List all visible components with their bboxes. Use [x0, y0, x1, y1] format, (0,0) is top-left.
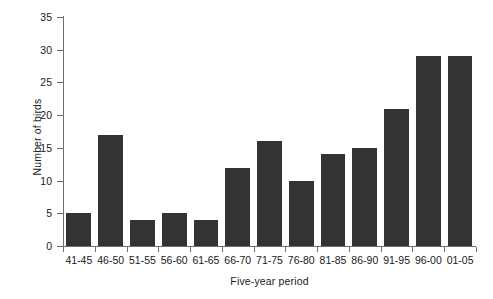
y-axis-tick-label: 30: [26, 44, 52, 55]
x-axis-tick: [254, 247, 255, 252]
x-axis-tick-label: 71-75: [256, 255, 283, 266]
x-axis-tick: [412, 247, 413, 252]
x-axis-tick: [381, 247, 382, 252]
x-axis-tick: [63, 247, 64, 252]
x-axis-title: Five-year period: [63, 275, 476, 287]
bar: [225, 168, 250, 247]
bar-chart: Number of birds 05101520253035 41-4546-5…: [0, 0, 493, 299]
y-axis-title: Number of birds: [31, 37, 43, 237]
bar-slot: [63, 17, 95, 246]
bar: [66, 213, 91, 246]
bar: [194, 220, 219, 246]
bar: [384, 109, 409, 246]
x-axis-tick: [95, 247, 96, 252]
x-axis-tick-label: 76-80: [288, 255, 315, 266]
bar-series: [63, 17, 476, 246]
bar: [162, 213, 187, 246]
bar-slot: [222, 17, 254, 246]
bar-slot: [285, 17, 317, 246]
bar-slot: [190, 17, 222, 246]
x-axis-tick-label: 46-50: [97, 255, 124, 266]
y-axis-tick-label: 20: [26, 110, 52, 121]
y-axis-tick-label: 25: [26, 77, 52, 88]
x-axis-tick: [190, 247, 191, 252]
x-axis-tick-label: 86-90: [351, 255, 378, 266]
x-axis-tick-label: 01-05: [447, 255, 474, 266]
x-axis-tick: [285, 247, 286, 252]
bar-slot: [412, 17, 444, 246]
x-axis-tick-label: 51-55: [129, 255, 156, 266]
x-axis-tick-label: 91-95: [383, 255, 410, 266]
bar: [130, 220, 155, 246]
y-axis-tick-label: 10: [26, 175, 52, 186]
bar-slot: [349, 17, 381, 246]
x-axis-tick-label: 81-85: [320, 255, 347, 266]
x-axis-tick-label: 96-00: [415, 255, 442, 266]
x-axis-tick-label: 61-65: [193, 255, 220, 266]
bar-slot: [444, 17, 476, 246]
x-axis-tick: [476, 247, 477, 252]
bar: [98, 135, 123, 246]
bar-slot: [127, 17, 159, 246]
y-axis-tick-label: 35: [26, 12, 52, 23]
bar: [352, 148, 377, 246]
x-axis-tick: [317, 247, 318, 252]
x-axis-tick: [127, 247, 128, 252]
y-axis-tick-label: 15: [26, 143, 52, 154]
bar: [448, 56, 473, 246]
bar-slot: [95, 17, 127, 246]
y-axis-tick-label: 0: [26, 241, 52, 252]
x-axis-tick-label: 41-45: [65, 255, 92, 266]
bar: [257, 141, 282, 246]
bar-slot: [254, 17, 286, 246]
bar-slot: [381, 17, 413, 246]
x-axis-tick: [349, 247, 350, 252]
x-axis-tick: [222, 247, 223, 252]
y-axis-tick-label: 5: [26, 208, 52, 219]
x-axis-tick: [158, 247, 159, 252]
bar: [289, 181, 314, 246]
x-axis-tick-label: 56-60: [161, 255, 188, 266]
x-axis-tick: [444, 247, 445, 252]
x-axis-tick-label: 66-70: [224, 255, 251, 266]
bar-slot: [158, 17, 190, 246]
x-axis-line: [63, 246, 476, 247]
bar: [321, 154, 346, 246]
bar-slot: [317, 17, 349, 246]
bar: [416, 56, 441, 246]
